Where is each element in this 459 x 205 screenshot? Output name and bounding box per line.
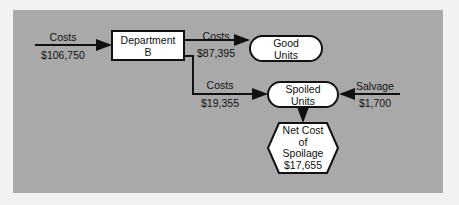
good-costs-title: Costs: [192, 30, 240, 42]
spoiled-units-line1: Spoiled: [285, 83, 320, 95]
net-cost-line1: Net Cost: [283, 125, 324, 137]
net-cost-line3: Spoilage: [283, 148, 324, 160]
spoiled-units-node: Spoiled Units: [267, 81, 339, 108]
input-costs-label: Costs: [28, 31, 98, 43]
good-units-node: Good Units: [249, 35, 323, 62]
good-costs-value: $87,395: [192, 47, 240, 59]
net-cost-text: Net Cost of Spoilage $17,655: [266, 122, 340, 174]
good-units-line1: Good: [273, 37, 299, 49]
input-costs-title: Costs: [28, 31, 98, 43]
salvage-value: $1,700: [350, 97, 400, 109]
spoiled-units-line2: Units: [291, 95, 315, 107]
salvage-title: Salvage: [350, 80, 400, 92]
input-costs-value: $106,750: [28, 49, 98, 61]
spoiled-costs-value: $19,355: [196, 97, 244, 109]
department-node: Department B: [111, 30, 185, 61]
department-title: Department: [121, 34, 176, 46]
good-units-line2: Units: [274, 49, 298, 61]
spoiled-costs-title: Costs: [196, 79, 244, 91]
net-cost-value: $17,655: [284, 160, 322, 172]
department-name: B: [144, 46, 151, 58]
